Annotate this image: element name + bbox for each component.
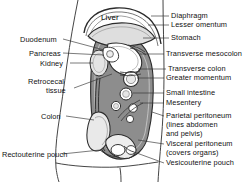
label-parietal-peritoneum-note-2: and pelvis)	[166, 130, 203, 139]
label-kidney: Kidney	[40, 60, 63, 69]
label-vesicouterine-pouch: Vesicouterine pouch	[166, 159, 234, 168]
label-small-intestine: Small intestine	[166, 89, 215, 98]
label-rectouterine-pouch: Rectouterine pouch	[2, 151, 67, 160]
label-retrocecal-tissue: tissue	[46, 87, 66, 96]
label-transverse-mesocolon: Transverse mesocolon	[166, 50, 242, 59]
transverse-colon-organ	[124, 72, 139, 87]
organ-label-liver: Liver	[101, 14, 119, 23]
label-pancreas: Pancreas	[29, 50, 61, 59]
label-mesentery: Mesentery	[166, 99, 201, 108]
label-colon: Colon	[41, 113, 61, 122]
label-stomach: Stomach	[171, 34, 201, 43]
label-lesser-omentum: Lesser omentum	[171, 21, 227, 30]
label-visceral-peritoneum-note-1: (covers organs)	[166, 149, 218, 158]
anatomy-figure: Liver Duodenum Pancreas Kidney Retroceca…	[0, 0, 246, 182]
label-greater-omentum: Greater momentum	[166, 74, 231, 83]
label-duodenum: Duodenum	[20, 36, 57, 45]
